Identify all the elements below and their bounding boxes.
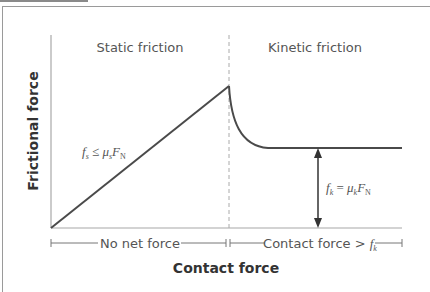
figure-frame: Static friction Kinetic friction fs ≤ μs… [0, 0, 430, 292]
static-friction-line [51, 86, 229, 228]
static-friction-equation: fs ≤ μsFN [82, 144, 126, 161]
contact-force-greater-label: Contact force > fk [263, 236, 377, 253]
arrow-head-down-icon [314, 218, 322, 228]
kinetic-friction-label: Kinetic friction [268, 40, 362, 55]
y-axis-title: Frictional force [25, 71, 41, 190]
arrow-head-up-icon [314, 148, 322, 158]
kinetic-friction-equation: fk = μkFN [326, 180, 371, 197]
kinetic-friction-curve [229, 86, 402, 148]
friction-diagram: Static friction Kinetic friction fs ≤ μs… [0, 0, 430, 292]
no-net-force-label: No net force [100, 236, 180, 251]
x-axis-title: Contact force [173, 260, 279, 276]
static-friction-label: Static friction [97, 40, 184, 55]
